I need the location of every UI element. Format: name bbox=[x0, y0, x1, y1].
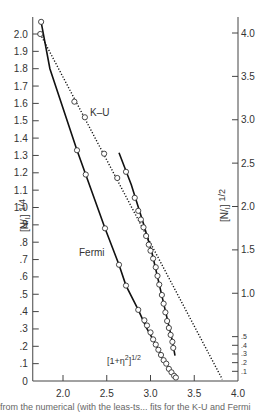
y-left-tick-label: 1.6 bbox=[14, 98, 28, 109]
eta-series-label: [1+η2]1/2 bbox=[107, 354, 141, 366]
k-u-point bbox=[72, 99, 77, 104]
fermi-point bbox=[144, 323, 149, 328]
y-right-tick-label: 3.5 bbox=[241, 71, 255, 82]
fermi-point bbox=[102, 226, 107, 231]
series-point bbox=[155, 273, 160, 278]
y-left-tick-label: 1.1 bbox=[14, 185, 28, 196]
y-left-tick-label: .3 bbox=[19, 323, 28, 334]
y-axis-left-label: [N/I]1/4 bbox=[17, 199, 31, 232]
fermi-point bbox=[142, 318, 147, 323]
fermi-point bbox=[39, 19, 44, 24]
y-right-tick-label: .3 bbox=[241, 350, 247, 357]
series-point bbox=[170, 339, 175, 344]
series-point bbox=[123, 169, 128, 174]
series-point bbox=[166, 325, 171, 330]
fermi-point bbox=[116, 262, 121, 267]
y-left-tick-label: .5 bbox=[19, 289, 28, 300]
series-point bbox=[151, 256, 156, 261]
fermi-point bbox=[164, 361, 169, 366]
k-u-point bbox=[38, 31, 43, 36]
y-left-tick-label: .1 bbox=[19, 358, 28, 369]
fermi-point bbox=[136, 307, 141, 312]
fermi-line bbox=[41, 22, 175, 378]
y-right-tick-label: 2.0 bbox=[241, 201, 255, 212]
series-point bbox=[144, 233, 149, 238]
fermi-point bbox=[151, 337, 156, 342]
series-point bbox=[148, 248, 153, 253]
y-right-tick-label: .4 bbox=[241, 342, 247, 349]
x-tick-label: 2.5 bbox=[100, 388, 114, 399]
fermi-point bbox=[83, 172, 88, 177]
series-point bbox=[138, 217, 143, 222]
series-point bbox=[161, 301, 166, 306]
fermi-point bbox=[156, 347, 161, 352]
fermi-point bbox=[148, 330, 153, 335]
series-point bbox=[157, 282, 162, 287]
k-u-point bbox=[82, 115, 87, 120]
y-left-tick-label: 1.2 bbox=[14, 167, 28, 178]
x-tick-label: 3.0 bbox=[144, 388, 158, 399]
ku-series-label: K–U bbox=[90, 107, 109, 118]
series-point bbox=[146, 242, 151, 247]
series-point bbox=[159, 292, 164, 297]
x-tick-label: 3.5 bbox=[187, 388, 201, 399]
y-right-tick-label: 3.0 bbox=[241, 114, 255, 125]
y-left-tick-label: 0 bbox=[22, 376, 28, 387]
y-left-tick-label: 1.5 bbox=[14, 115, 28, 126]
k-u-line bbox=[40, 34, 222, 379]
series-point bbox=[171, 345, 176, 350]
series-layer bbox=[38, 19, 223, 380]
series-point bbox=[153, 265, 158, 270]
y-left-tick-label: 2.0 bbox=[14, 29, 28, 40]
x-tick-label: 4.0 bbox=[231, 388, 245, 399]
fermi-point bbox=[158, 352, 163, 357]
fermi-point bbox=[74, 148, 79, 153]
chart: 2.02.53.03.54.00.1.2.3.4.5.6.7.8.91.01.1… bbox=[0, 0, 270, 412]
y-right-tick-label: 1.5 bbox=[241, 244, 255, 255]
y-axis-right-label: [N/I]1/2 bbox=[217, 189, 231, 222]
y-left-tick-label: .4 bbox=[19, 306, 28, 317]
fermi-point bbox=[123, 283, 128, 288]
y-right-tick-label: 2.5 bbox=[241, 158, 255, 169]
y-right-tick-label: 1.0 bbox=[241, 288, 255, 299]
y-right-tick-label: 4.0 bbox=[241, 28, 255, 39]
series-point bbox=[132, 195, 137, 200]
fermi-point bbox=[153, 342, 158, 347]
series-point bbox=[168, 332, 173, 337]
y-left-tick-label: .6 bbox=[19, 271, 28, 282]
k-u-point bbox=[102, 151, 107, 156]
y-left-tick-label: .7 bbox=[19, 254, 28, 265]
series-point bbox=[141, 225, 146, 230]
y-left-tick-label: .2 bbox=[19, 341, 28, 352]
k-u-point bbox=[115, 175, 120, 180]
series-point bbox=[136, 208, 141, 213]
x-tick-label: 2.0 bbox=[56, 388, 70, 399]
y-left-tick-label: 1.9 bbox=[14, 46, 28, 57]
fermi-point bbox=[173, 375, 178, 380]
y-right-tick-label: .1 bbox=[241, 368, 247, 375]
series-point bbox=[163, 310, 168, 315]
figure-caption: from the numerical (with the leas-ts... … bbox=[0, 402, 270, 412]
series-point bbox=[165, 318, 170, 323]
fermi-series-label: Fermi bbox=[79, 247, 105, 258]
y-left-tick-label: .8 bbox=[19, 237, 28, 248]
y-left-tick-label: 1.3 bbox=[14, 150, 28, 161]
y-left-tick-label: 1.4 bbox=[14, 133, 28, 144]
y-left-tick-label: 1.8 bbox=[14, 63, 28, 74]
y-left-tick-label: 1.7 bbox=[14, 81, 28, 92]
y-right-tick-label: .5 bbox=[241, 333, 247, 340]
y-right-tick-label: .2 bbox=[241, 359, 247, 366]
